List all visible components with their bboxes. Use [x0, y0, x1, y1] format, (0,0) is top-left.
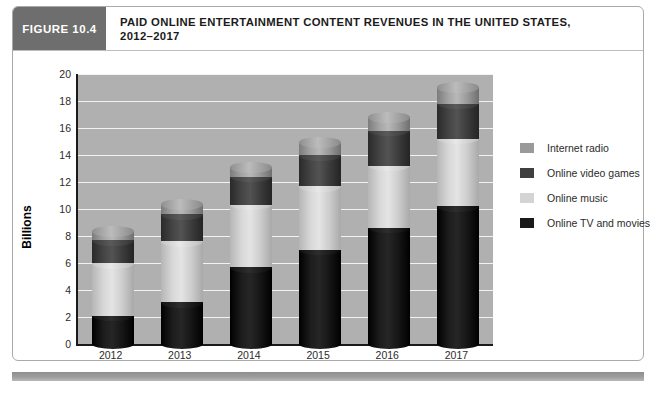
bar-segment[interactable]	[230, 205, 272, 267]
figure-number-tag: FIGURE 10.4	[13, 7, 106, 50]
bar-segment-body	[230, 205, 272, 267]
bar-stack[interactable]	[437, 74, 479, 344]
bar-segment-cap	[368, 112, 410, 123]
bar-segment[interactable]	[368, 166, 410, 228]
bar-segment-body	[161, 241, 203, 302]
y-tick-label: 4	[41, 284, 71, 296]
bar-segment[interactable]	[230, 267, 272, 344]
legend-item[interactable]: Online TV and movies	[520, 210, 640, 235]
legend-swatch-icon	[520, 193, 534, 203]
legend-swatch-icon	[520, 168, 534, 178]
legend-swatch-icon	[520, 218, 534, 228]
legend-item-label: Online TV and movies	[547, 217, 650, 229]
bar-segment[interactable]	[368, 117, 410, 131]
y-tick-label: 8	[41, 230, 71, 242]
x-tick-label: 2016	[376, 349, 399, 361]
y-tick-label: 14	[41, 149, 71, 161]
chart-body: Billions 02468101214161820 2012201320142…	[13, 51, 643, 360]
bar-segment[interactable]	[230, 167, 272, 176]
bar-stack[interactable]	[230, 74, 272, 344]
figure-title: PAID ONLINE ENTERTAINMENT CONTENT REVENU…	[106, 7, 643, 50]
legend-item-label: Internet radio	[547, 142, 609, 154]
y-tick-label: 12	[41, 176, 71, 188]
figure-header: FIGURE 10.4 PAID ONLINE ENTERTAINMENT CO…	[13, 7, 643, 51]
bar-segment[interactable]	[437, 88, 479, 104]
x-tick-label: 2017	[445, 349, 468, 361]
bar-segment[interactable]	[161, 302, 203, 344]
bar-stack[interactable]	[92, 74, 134, 344]
y-tick-label: 20	[41, 68, 71, 80]
bar-stack[interactable]	[368, 74, 410, 344]
legend-item-label: Online video games	[547, 167, 640, 179]
bar-segment[interactable]	[299, 186, 341, 249]
chart-legend: Internet radioOnline video gamesOnline m…	[520, 135, 640, 235]
figure-title-line-1: PAID ONLINE ENTERTAINMENT CONTENT REVENU…	[120, 15, 633, 29]
legend-item[interactable]: Online video games	[520, 160, 640, 185]
y-axis-label: Billions	[20, 205, 34, 248]
bar-segment[interactable]	[437, 206, 479, 344]
bar-segment[interactable]	[368, 228, 410, 344]
x-tick-label: 2012	[99, 349, 122, 361]
bar-segment[interactable]	[437, 139, 479, 207]
bar-segment[interactable]	[299, 143, 341, 155]
bar-segment[interactable]	[92, 232, 134, 240]
bar-segment[interactable]	[161, 214, 203, 241]
x-tick-label: 2014	[237, 349, 260, 361]
bar-series-group	[78, 74, 493, 344]
bar-stack[interactable]	[161, 74, 203, 344]
legend-item[interactable]: Online music	[520, 185, 640, 210]
y-tick-label: 6	[41, 257, 71, 269]
bar-segment[interactable]	[368, 131, 410, 166]
legend-item-label: Online music	[547, 192, 608, 204]
bar-segment[interactable]	[437, 104, 479, 139]
plot-area	[76, 74, 493, 346]
bar-segment-body	[437, 139, 479, 207]
x-tick-label: 2013	[168, 349, 191, 361]
y-tick-label: 10	[41, 203, 71, 215]
legend-item[interactable]: Internet radio	[520, 135, 640, 160]
bar-segment-cap	[230, 162, 272, 173]
x-tick-label: 2015	[306, 349, 329, 361]
bar-segment[interactable]	[299, 250, 341, 345]
bar-segment[interactable]	[299, 155, 341, 186]
bar-segment-body	[230, 267, 272, 344]
bar-segment-body	[161, 302, 203, 344]
bottom-rule-divider	[12, 372, 644, 381]
bar-segment-body	[368, 166, 410, 228]
bar-segment[interactable]	[92, 240, 134, 263]
bar-segment-body	[92, 263, 134, 316]
figure-card: FIGURE 10.4 PAID ONLINE ENTERTAINMENT CO…	[12, 6, 644, 361]
bar-segment[interactable]	[92, 263, 134, 316]
bar-segment[interactable]	[230, 177, 272, 205]
legend-swatch-icon	[520, 143, 534, 153]
x-axis-ticks: 201220132014201520162017	[76, 349, 491, 369]
y-tick-label: 2	[41, 311, 71, 323]
bar-segment-body	[299, 250, 341, 345]
y-tick-label: 18	[41, 95, 71, 107]
bar-segment[interactable]	[161, 205, 203, 214]
bar-segment-body	[299, 186, 341, 249]
bar-segment[interactable]	[92, 316, 134, 344]
y-tick-label: 16	[41, 122, 71, 134]
bar-segment[interactable]	[161, 241, 203, 302]
figure-title-line-2: 2012–2017	[120, 29, 633, 43]
y-axis-ticks: 02468101214161820	[41, 51, 71, 361]
bar-stack[interactable]	[299, 74, 341, 344]
bar-segment-body	[368, 228, 410, 344]
y-tick-label: 0	[41, 338, 71, 350]
bar-segment-body	[437, 206, 479, 344]
